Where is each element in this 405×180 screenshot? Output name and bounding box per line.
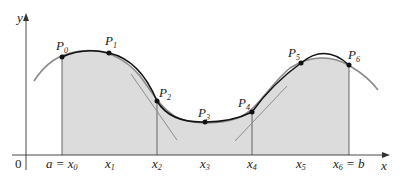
point-label-p2: P2	[158, 85, 171, 102]
point-label-p5: P5	[287, 45, 300, 62]
point-p4	[250, 110, 255, 115]
tick-label-x0: a = x0	[46, 156, 78, 172]
origin-label: 0	[15, 156, 22, 171]
point-label-p3: P3	[197, 105, 210, 122]
tick-label-x3: x3	[199, 156, 210, 172]
point-label-p4: P4	[237, 95, 250, 112]
point-p1	[107, 51, 112, 56]
tick-label-x6: x6 = b	[332, 156, 365, 172]
tick-label-x5: x5	[295, 156, 306, 172]
point-label-p0: P0	[55, 38, 68, 55]
point-label-p1: P1	[104, 33, 117, 50]
point-label-p6: P6	[347, 47, 360, 64]
simpsons-rule-diagram: y x 0 P0 P1 P2 P3 P4 P5 P6 a = x0 x1 x2 …	[0, 0, 405, 180]
y-axis-arrow-icon	[23, 13, 29, 21]
point-p0	[60, 55, 65, 60]
tick-label-x2: x2	[151, 156, 162, 172]
point-p6	[347, 63, 352, 68]
x-axis-label: x	[380, 158, 387, 173]
shaded-area	[62, 51, 349, 155]
tick-label-x4: x4	[246, 156, 257, 172]
tick-label-x1: x1	[104, 156, 115, 172]
diagram-canvas: y x 0 P0 P1 P2 P3 P4 P5 P6 a = x0 x1 x2 …	[0, 0, 405, 180]
y-axis-label: y	[15, 10, 23, 25]
